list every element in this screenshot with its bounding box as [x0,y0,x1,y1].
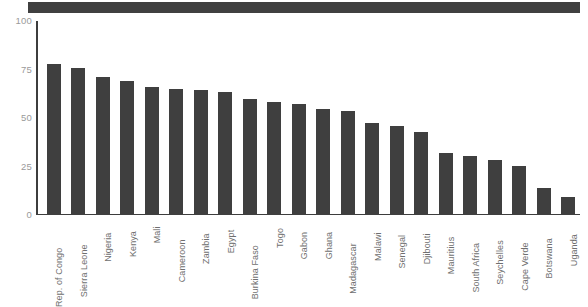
bar[interactable] [218,92,232,215]
bar-slot [263,21,288,215]
x-axis-label: Gabon [299,204,309,232]
bar[interactable] [292,104,306,215]
x-label-slot: Gabon [287,216,312,298]
x-label-slot: Uganda [557,216,582,298]
x-label-slot: Burkina Faso [238,216,263,298]
x-axis-label: Egypt [226,206,236,230]
x-axis-category-labels: Rep. of CongoSierra LeoneNigeriaKenyaMal… [36,216,580,298]
x-label-slot: Seychelles [483,216,508,298]
y-tick-label: 25 [2,162,32,172]
x-axis-label: Nigeria [103,203,113,232]
bar-slot [238,21,263,215]
x-label-slot: Kenya [116,216,141,298]
x-axis-label: Mauritius [446,199,456,236]
y-tick-label: 100 [2,16,32,26]
bar-slot [361,21,386,215]
bar-slot [557,21,582,215]
x-axis-label: Sierra Leone [79,192,89,245]
x-label-slot: Togo [263,216,288,298]
bar-slot [312,21,337,215]
x-axis-label-text: Nigeria [103,233,113,262]
x-label-slot: Madagascar [336,216,361,298]
bar-slot [336,21,361,215]
x-axis-label: South Africa [471,193,481,243]
x-axis-label: Uganda [569,202,579,234]
x-axis-label-text: Malawi [373,232,383,261]
x-label-slot: Cameroon [165,216,190,298]
x-axis-label-text: Mauritius [446,237,456,274]
bar-series [36,21,580,215]
x-axis-label-text: Cameroon [177,239,187,282]
x-axis-label: Djibouti [422,203,432,234]
x-axis-label-text: Mali [152,226,162,243]
x-axis-label: Cape Verde [520,194,530,243]
x-axis-label-text: Djibouti [422,233,432,264]
x-axis-label-text: Gabon [299,232,309,260]
x-label-slot: Botswana [532,216,557,298]
x-axis-label-text: Ghana [324,232,334,260]
bar[interactable] [365,123,379,215]
x-label-slot: Senegal [385,216,410,298]
bar-slot [165,21,190,215]
x-label-slot: Egypt [214,216,239,298]
x-label-slot: Mauritius [434,216,459,298]
bar-slot [287,21,312,215]
x-axis-label-text: Burkina Faso [250,245,260,299]
bar-slot [140,21,165,215]
bar-slot [116,21,141,215]
bar-slot [434,21,459,215]
x-axis-label: Kenya [128,205,138,231]
x-axis-label-text: Senegal [397,235,407,269]
bar-slot [508,21,533,215]
x-label-slot: Djibouti [410,216,435,298]
bar[interactable] [120,81,134,215]
y-tick-label: 50 [2,113,32,123]
x-axis-label-text: Cape Verde [520,242,530,291]
x-axis-label-text: Sierra Leone [79,244,89,297]
x-axis-label: Senegal [397,201,407,235]
x-axis-label-text: Zambia [201,233,211,264]
x-label-slot: Malawi [361,216,386,298]
bar-slot [410,21,435,215]
bar[interactable] [267,102,281,215]
x-label-slot: Ghana [312,216,337,298]
x-label-slot: Mali [140,216,165,298]
y-tick-label: 0 [2,210,32,220]
x-axis-label-text: Madagascar [348,243,358,294]
bar[interactable] [194,90,208,215]
top-banner [28,2,580,13]
x-axis-label: Madagascar [348,193,358,244]
bar-slot [91,21,116,215]
x-label-slot: Zambia [189,216,214,298]
x-label-slot: Sierra Leone [67,216,92,298]
bar-slot [385,21,410,215]
x-axis-label-text: Togo [275,228,285,248]
x-axis-label-text: Egypt [226,230,236,254]
x-axis-label-text: Rep. of Congo [54,248,64,307]
y-axis-tick-labels: 0255075100 [0,0,32,298]
bar[interactable] [316,109,330,215]
bar[interactable] [145,87,159,215]
bar-slot [67,21,92,215]
x-label-slot: South Africa [459,216,484,298]
y-tick-label: 75 [2,65,32,75]
x-axis-label: Zambia [201,203,211,234]
x-label-slot: Nigeria [91,216,116,298]
x-axis-label: Rep. of Congo [54,188,64,247]
x-axis-label: Cameroon [177,197,187,240]
x-axis-label: Togo [275,208,285,228]
x-axis-label: Ghana [324,204,334,232]
bar-slot [214,21,239,215]
bar-slot [459,21,484,215]
x-axis-label: Malawi [373,204,383,233]
x-label-slot: Cape Verde [508,216,533,298]
x-axis-label-text: Uganda [569,234,579,266]
x-axis-label-text: Seychelles [495,240,505,285]
bar-slot [532,21,557,215]
x-axis-label: Mali [152,210,162,227]
bar-slot [483,21,508,215]
bar-slot [42,21,67,215]
bar[interactable] [96,77,110,215]
x-axis-label-text: Botswana [544,238,554,278]
